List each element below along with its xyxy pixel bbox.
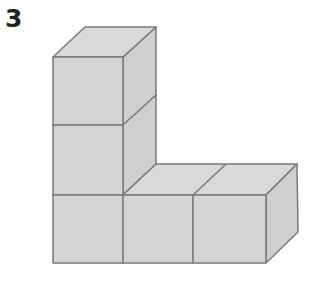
cube-front-bottom-right [193,195,266,263]
cube-front-bottom-middle [123,195,193,263]
cube-front-top [53,57,123,125]
cube-front-middle [53,125,123,195]
cube-front-bottom-left [53,195,123,263]
cube-figure [0,0,312,283]
